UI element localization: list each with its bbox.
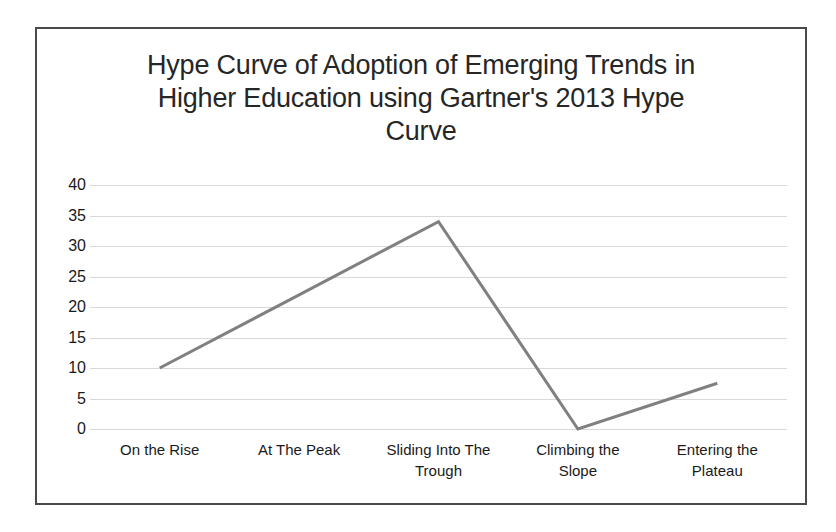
x-axis-category-label: Entering thePlateau [648, 439, 787, 481]
y-axis-tick-label: 40 [42, 177, 86, 193]
y-axis-tick-label: 30 [42, 238, 86, 254]
x-axis-category-label: At The Peak [229, 439, 368, 460]
chart-frame: Hype Curve of Adoption of Emerging Trend… [35, 27, 807, 505]
y-axis-tick-label: 5 [42, 391, 86, 407]
y-axis-tick-label: 10 [42, 360, 86, 376]
y-axis-tick-label: 0 [42, 421, 86, 437]
series-line-chart [90, 185, 787, 429]
y-axis-tick-label: 35 [42, 208, 86, 224]
gridline [90, 429, 787, 430]
series-polyline [160, 222, 718, 429]
x-axis-category-label: Climbing theSlope [508, 439, 647, 481]
x-axis-category-labels: On the RiseAt The PeakSliding Into TheTr… [90, 439, 787, 499]
plot-area [90, 185, 787, 429]
y-axis-tick-label: 20 [42, 299, 86, 315]
y-axis-tick-labels: 4035302520151050 [42, 185, 86, 429]
chart-title: Hype Curve of Adoption of Emerging Trend… [37, 49, 805, 148]
y-axis-tick-label: 15 [42, 330, 86, 346]
y-axis-tick-label: 25 [42, 269, 86, 285]
x-axis-category-label: On the Rise [90, 439, 229, 460]
x-axis-category-label: Sliding Into TheTrough [369, 439, 508, 481]
